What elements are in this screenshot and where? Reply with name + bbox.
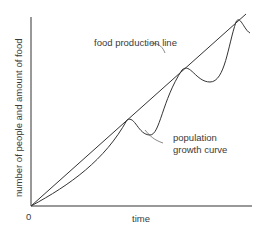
diagram: food production line population growth c… [0,0,264,235]
population-curve-leader [145,130,163,143]
y-axis-label: number of people and amount of food [13,39,24,197]
population-label-line1: population [173,132,217,143]
x-axis-label: time [132,213,150,224]
food-production-label: food production line [94,37,177,48]
population-label-line2: growth curve [173,144,227,155]
origin-label: 0 [26,211,31,222]
